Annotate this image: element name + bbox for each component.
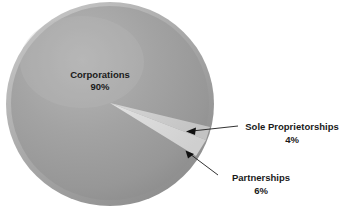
- slice-label-corporations: Corporations: [70, 69, 130, 80]
- leader-line-partnerships: [190, 154, 218, 175]
- slice-value-corporations: 90%: [90, 81, 110, 92]
- pie-chart-canvas: Corporations 90% Sole Proprietorships 4%…: [0, 0, 348, 212]
- slice-label-partnerships: Partnerships: [232, 172, 290, 183]
- pie-highlight: [20, 16, 144, 108]
- slice-label-sole-proprietorships: Sole Proprietorships: [245, 121, 338, 132]
- pie-chart: Corporations 90% Sole Proprietorships 4%…: [0, 0, 348, 212]
- slice-value-partnerships: 6%: [254, 185, 268, 196]
- slice-value-sole-proprietorships: 4%: [285, 134, 299, 145]
